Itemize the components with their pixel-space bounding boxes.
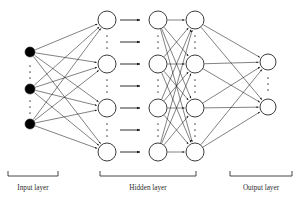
diagram-canvas: Input layer Hidden layer Output layer bbox=[0, 0, 303, 206]
neuron-node-hidden-1 bbox=[98, 11, 116, 29]
neuron-node-hidden-3 bbox=[186, 99, 204, 117]
ellipsis-dot bbox=[267, 89, 269, 91]
ellipsis-dot bbox=[157, 35, 159, 37]
ellipsis-dot bbox=[29, 77, 31, 79]
ellipsis-dot bbox=[157, 91, 159, 93]
neuron-node-hidden-3 bbox=[186, 55, 204, 73]
connection-edge bbox=[203, 112, 260, 147]
connection-edge bbox=[34, 55, 98, 102]
ellipsis-dot bbox=[106, 79, 108, 81]
ellipsis-dot bbox=[267, 77, 269, 79]
neuron-node-input bbox=[25, 119, 35, 129]
ellipsis-dot bbox=[29, 106, 31, 108]
neuron-node-input bbox=[25, 84, 35, 94]
bracket-layer bbox=[8, 171, 292, 176]
neuron-node-hidden-2 bbox=[149, 11, 167, 29]
output-layer-bracket bbox=[230, 171, 292, 176]
ellipsis-dot bbox=[194, 79, 196, 81]
ellipsis-dot bbox=[194, 35, 196, 37]
connection-edge bbox=[164, 115, 188, 144]
ellipsis-dot bbox=[157, 47, 159, 49]
neuron-node-hidden-1 bbox=[98, 99, 116, 117]
neuron-node-output bbox=[260, 54, 276, 70]
connection-edge bbox=[35, 110, 96, 123]
ellipsis-dot bbox=[106, 85, 108, 87]
connection-edge bbox=[35, 67, 97, 87]
connection-edge bbox=[164, 116, 188, 145]
neuron-node-hidden-3 bbox=[186, 11, 204, 29]
ellipsis-dot bbox=[29, 112, 31, 114]
ellipsis-dot bbox=[106, 135, 108, 137]
ellipsis-dot bbox=[157, 79, 159, 81]
neuron-node-hidden-2 bbox=[149, 143, 167, 161]
neural-network-svg bbox=[0, 0, 303, 206]
connection-edge bbox=[164, 28, 188, 57]
neuron-node-hidden-2 bbox=[149, 99, 167, 117]
ellipsis-dot bbox=[194, 91, 196, 93]
ellipsis-dot bbox=[29, 100, 31, 102]
ellipsis-dot bbox=[194, 129, 196, 131]
ellipsis-dot bbox=[157, 123, 159, 125]
connection-edge bbox=[203, 25, 260, 58]
ellipsis-layer bbox=[29, 35, 269, 137]
ellipsis-dot bbox=[29, 65, 31, 67]
connection-edge bbox=[35, 53, 96, 63]
neuron-node-hidden-1 bbox=[98, 143, 116, 161]
ellipsis-dot bbox=[157, 129, 159, 131]
neuron-node-input bbox=[25, 47, 35, 57]
ellipsis-dot bbox=[194, 41, 196, 43]
ellipsis-dot bbox=[29, 71, 31, 73]
ellipsis-dot bbox=[194, 85, 196, 87]
ellipsis-dot bbox=[106, 123, 108, 125]
neuron-node-output bbox=[260, 99, 276, 115]
edge-layer bbox=[33, 20, 262, 152]
ellipsis-dot bbox=[194, 123, 196, 125]
connection-edge bbox=[34, 27, 99, 85]
neuron-node-hidden-2 bbox=[149, 55, 167, 73]
ellipsis-dot bbox=[106, 47, 108, 49]
ellipsis-dot bbox=[157, 135, 159, 137]
ellipsis-dot bbox=[106, 41, 108, 43]
ellipsis-dot bbox=[267, 83, 269, 85]
connector-arrow-layer bbox=[120, 20, 140, 152]
ellipsis-dot bbox=[106, 129, 108, 131]
ellipsis-dot bbox=[194, 135, 196, 137]
connection-edge bbox=[33, 28, 100, 119]
neuron-node-hidden-1 bbox=[98, 55, 116, 73]
ellipsis-dot bbox=[106, 91, 108, 93]
ellipsis-dot bbox=[194, 47, 196, 49]
ellipsis-dot bbox=[106, 35, 108, 37]
ellipsis-dot bbox=[157, 41, 159, 43]
output-layer-label: Output layer bbox=[110, 184, 304, 192]
node-layer bbox=[25, 11, 276, 161]
neuron-node-hidden-3 bbox=[186, 143, 204, 161]
connection-edge bbox=[35, 126, 97, 149]
connection-edge bbox=[164, 27, 188, 56]
input-layer-bracket bbox=[8, 171, 58, 176]
connection-edge bbox=[34, 70, 98, 120]
hidden-layer-bracket bbox=[100, 171, 196, 176]
connection-edge bbox=[35, 90, 96, 105]
ellipsis-dot bbox=[157, 85, 159, 87]
connection-edge bbox=[164, 71, 188, 100]
